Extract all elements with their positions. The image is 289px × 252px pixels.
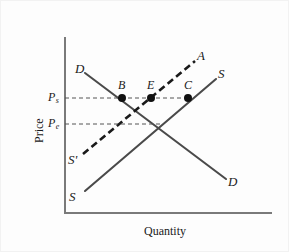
supply-demand-figure: D D S S A S' B E C Ps Pe Price Quantity (0, 0, 289, 252)
price-equilibrium-label: Pe (48, 117, 59, 129)
demand-top-label: D (75, 62, 84, 75)
x-axis-title: Quantity (144, 225, 186, 237)
price-equilibrium-letter: P (48, 116, 55, 130)
price-equilibrium-subscript: e (56, 122, 60, 131)
price-subsidy-label: Ps (48, 91, 58, 103)
point-marker-e (147, 94, 155, 102)
subsidised-supply-bottom-label: S' (68, 153, 77, 166)
point-marker-c (184, 94, 192, 102)
subsidised-supply-curve (83, 61, 195, 154)
price-subsidy-letter: P (48, 90, 55, 104)
supply-bottom-label: S (69, 190, 76, 203)
point-label-c: C (184, 79, 192, 91)
supply-top-label: S (218, 67, 225, 80)
point-label-b: B (118, 79, 125, 91)
point-label-e: E (147, 79, 154, 91)
y-axis-title: Price (33, 118, 45, 143)
demand-bottom-label: D (228, 175, 237, 188)
price-subsidy-subscript: s (56, 96, 59, 105)
subsidised-supply-top-label: A (197, 49, 205, 62)
point-marker-b (118, 94, 126, 102)
